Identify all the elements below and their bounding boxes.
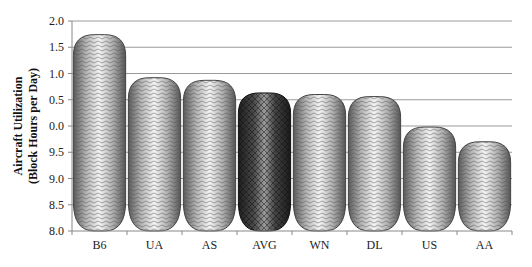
bar-dl bbox=[348, 97, 400, 231]
y-tick-label: 8.5 bbox=[49, 198, 64, 212]
y-tick-label: 8.0 bbox=[49, 224, 64, 238]
y-tick-label: 9.0 bbox=[49, 172, 64, 186]
bar-chart: 8.08.59.09.50.00.51.01.52.0 B6UAASAVGWND… bbox=[0, 0, 532, 267]
x-category-label: WN bbox=[310, 238, 330, 252]
bar-wn bbox=[293, 95, 345, 232]
y-tick-label: 9.5 bbox=[49, 145, 64, 159]
y-axis-label-line: (Block Hours per Day) bbox=[26, 68, 40, 184]
x-category-label: AA bbox=[476, 238, 494, 252]
x-category-label: B6 bbox=[92, 238, 106, 252]
y-axis-label: Aircraft Utilization(Block Hours per Day… bbox=[11, 68, 40, 184]
y-axis-label-line: Aircraft Utilization bbox=[11, 76, 25, 175]
x-category-labels: B6UAASAVGWNDLUSAA bbox=[92, 238, 493, 252]
x-category-label: UA bbox=[146, 238, 164, 252]
bars bbox=[73, 35, 510, 231]
x-category-label: AS bbox=[202, 238, 217, 252]
y-tick-label: 1.5 bbox=[49, 40, 64, 54]
y-tick-label: 0.0 bbox=[49, 119, 64, 133]
bar-aa bbox=[458, 142, 510, 231]
y-tick-label: 2.0 bbox=[49, 14, 64, 28]
y-tick-label: 1.0 bbox=[49, 67, 64, 81]
bar-avg bbox=[238, 93, 290, 231]
y-tick-label: 0.5 bbox=[49, 93, 64, 107]
bar-ua bbox=[128, 78, 180, 231]
x-category-label: DL bbox=[367, 238, 383, 252]
bar-b6 bbox=[73, 35, 125, 231]
y-tick-labels: 8.08.59.09.50.00.51.01.52.0 bbox=[49, 14, 64, 238]
x-category-label: US bbox=[422, 238, 437, 252]
bar-as bbox=[183, 80, 235, 231]
bar-us bbox=[403, 127, 455, 231]
x-category-label: AVG bbox=[252, 238, 277, 252]
